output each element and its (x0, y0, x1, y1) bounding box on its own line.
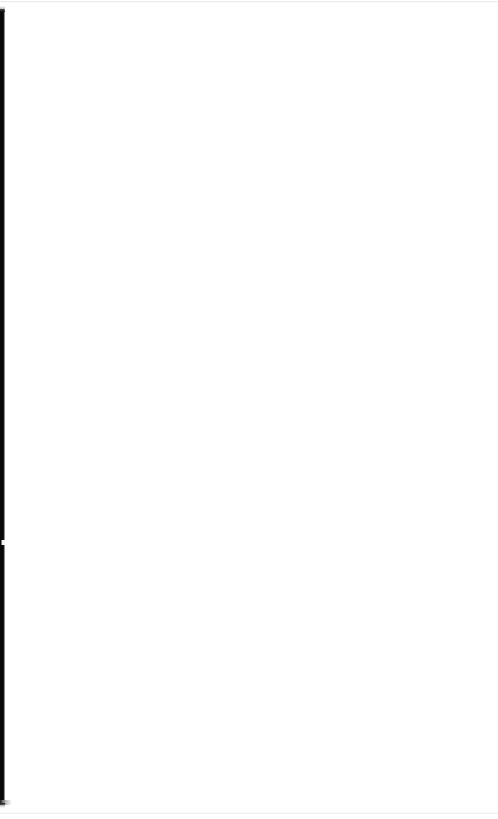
left-edge-band-top-cap (0, 6, 5, 12)
left-edge-band-notch (1, 540, 5, 545)
left-edge-band[interactable] (0, 9, 5, 804)
left-edge-band-bottom-cap (0, 803, 5, 808)
page-content-area[interactable] (6, 3, 498, 817)
page-viewport (0, 0, 498, 819)
